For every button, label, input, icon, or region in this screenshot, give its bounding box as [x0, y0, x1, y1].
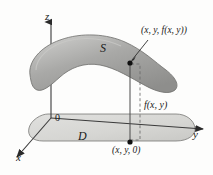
- point-top-label: (x, y, f(x, y)): [141, 26, 187, 36]
- point-base-label: (x, y, 0): [112, 146, 141, 156]
- axis-x-label: x: [16, 152, 21, 163]
- point-base-marker: [127, 139, 132, 144]
- axis-z-label: z: [45, 11, 49, 22]
- domain-label: D: [78, 130, 87, 142]
- surface-label: S: [100, 42, 106, 54]
- height-label: f(x, y): [144, 100, 167, 110]
- point-top-marker: [127, 60, 132, 65]
- surface-over-domain-figure: z y x 0 S D (x, y, f(x, y)) (x, y, 0) f(…: [0, 0, 213, 175]
- origin-label: 0: [55, 113, 60, 123]
- axis-y-label: y: [193, 129, 198, 140]
